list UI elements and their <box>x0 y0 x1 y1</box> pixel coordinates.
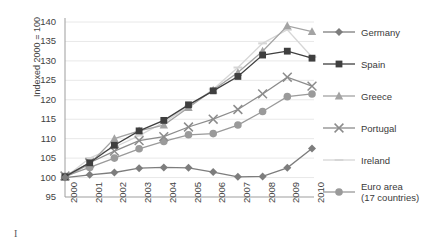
legend-item-label-line2: (17 countries) <box>361 192 419 203</box>
data-point-marker <box>283 21 291 29</box>
legend-marker-cross-icon <box>322 120 356 136</box>
data-point-marker <box>209 168 217 176</box>
data-point-marker <box>234 173 242 181</box>
data-point-marker <box>308 82 317 91</box>
legend-item-portugal[interactable]: Portugal <box>322 112 442 144</box>
legend-marker-line-icon <box>322 152 356 168</box>
data-point-marker <box>308 90 316 98</box>
data-point-marker <box>184 123 193 132</box>
legend-marker-diamond-icon <box>322 24 356 40</box>
data-point-marker <box>86 159 93 166</box>
data-point-marker <box>336 61 343 68</box>
legend-item-label-line1: Euro area <box>361 181 419 192</box>
legend-item-label: Greece <box>361 91 392 102</box>
data-point-marker <box>235 73 242 80</box>
legend-item-ireland[interactable]: Ireland <box>322 144 442 176</box>
data-point-marker <box>185 131 193 139</box>
x-axis-tick-label: 2009 <box>291 182 300 203</box>
series-germany <box>61 144 316 181</box>
legend-item-label: Portugal <box>361 123 396 134</box>
data-point-marker <box>284 93 292 101</box>
series-greece <box>61 21 316 180</box>
data-point-marker <box>160 117 167 124</box>
data-point-marker <box>185 101 192 108</box>
data-point-marker <box>259 172 267 180</box>
legend-item-germany[interactable]: Germany <box>322 16 442 48</box>
legend-marker-triangle-icon <box>322 88 356 104</box>
x-axis-tick-label: 2006 <box>217 182 226 203</box>
data-point-marker <box>258 90 267 99</box>
data-point-marker <box>111 154 119 162</box>
data-point-marker <box>234 105 243 114</box>
x-axis-tick-label: 2004 <box>168 182 177 203</box>
series-spain <box>62 48 316 180</box>
legend-item-euro-area-17-countries[interactable]: Euro area(17 countries) <box>322 176 442 208</box>
legend-item-spain[interactable]: Spain <box>322 48 442 80</box>
corner-mark: I <box>14 228 17 239</box>
legend-marker-square-icon <box>322 56 356 72</box>
data-point-marker <box>135 145 143 153</box>
x-axis-tick-label: 2002 <box>118 182 127 203</box>
data-point-marker <box>111 142 118 149</box>
data-point-marker <box>135 164 143 172</box>
data-point-marker <box>335 28 343 36</box>
x-axis-tick-label: 2005 <box>193 182 202 203</box>
legend-item-label: Ireland <box>361 155 390 166</box>
data-point-marker <box>210 87 217 94</box>
chart-container: Indexed 2000 = 100 140135130125120115110… <box>0 0 442 249</box>
legend-item-label: Spain <box>361 59 385 70</box>
legend-item-label: Euro area(17 countries) <box>361 181 419 203</box>
legend-item-label: Germany <box>361 27 400 38</box>
data-point-marker <box>110 169 118 177</box>
x-axis-tick-label: 2000 <box>69 182 78 203</box>
data-point-marker <box>234 121 242 129</box>
data-point-marker <box>259 52 266 59</box>
x-axis-tick-label: 2008 <box>267 182 276 203</box>
x-axis-tick-label: 2007 <box>242 182 251 203</box>
x-axis-tick-label: 2003 <box>143 182 152 203</box>
data-point-marker <box>185 164 193 172</box>
legend-item-greece[interactable]: Greece <box>322 80 442 112</box>
data-point-marker <box>284 48 291 55</box>
data-point-marker <box>259 108 267 116</box>
data-point-marker <box>209 130 217 138</box>
legend-marker-circle-icon <box>322 184 356 200</box>
x-axis-tick-label: 2001 <box>94 182 103 203</box>
data-point-marker <box>160 163 168 171</box>
data-point-marker <box>335 188 343 196</box>
data-point-marker <box>309 55 316 62</box>
data-point-marker <box>136 127 143 134</box>
chart-legend: GermanySpainGreecePortugalIrelandEuro ar… <box>322 16 442 208</box>
